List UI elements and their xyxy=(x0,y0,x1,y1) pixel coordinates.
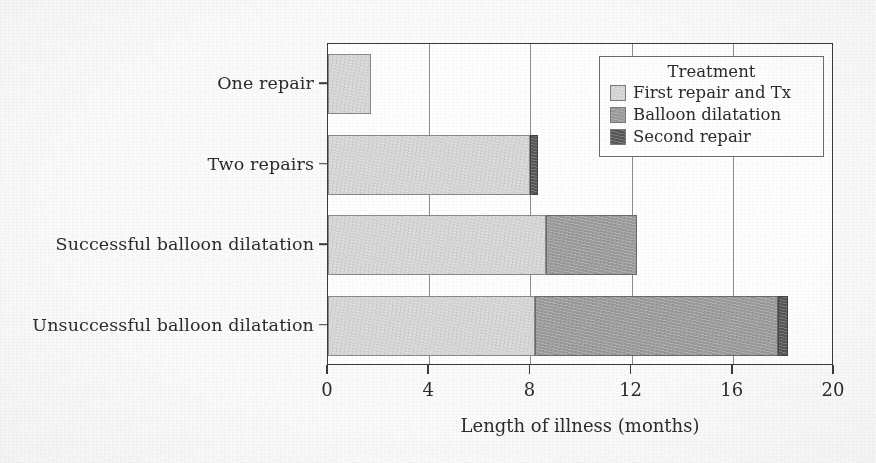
bar-texture xyxy=(329,136,529,194)
bar-texture xyxy=(329,297,534,355)
x-tick-label: 20 xyxy=(822,379,845,400)
legend-swatch-icon xyxy=(610,129,626,145)
x-tick-mark xyxy=(529,365,531,374)
bar-texture xyxy=(536,297,777,355)
bar-segment xyxy=(530,135,538,195)
bar-segment xyxy=(328,54,371,114)
figure-canvas: One repairTwo repairsSuccessful balloon … xyxy=(0,0,876,463)
legend-title: Treatment xyxy=(610,62,813,82)
y-tick-label: One repair xyxy=(217,73,314,93)
legend-label: Balloon dilatation xyxy=(633,107,781,124)
legend-swatch-texture xyxy=(611,86,625,100)
bar-segment xyxy=(328,215,546,275)
legend-item-list: First repair and TxBalloon dilatationSec… xyxy=(610,82,813,148)
x-tick-mark xyxy=(731,365,733,374)
y-tick-mark xyxy=(319,243,327,245)
x-tick-label: 16 xyxy=(720,379,743,400)
bar-segment xyxy=(328,296,535,356)
bar-texture xyxy=(531,136,537,194)
bar-texture xyxy=(779,297,787,355)
bar-texture xyxy=(329,55,370,113)
legend-swatch-icon xyxy=(610,85,626,101)
x-tick-label: 8 xyxy=(524,379,535,400)
bar-segment xyxy=(778,296,788,356)
x-tick-mark xyxy=(326,365,328,374)
bar-row xyxy=(328,296,834,356)
legend: Treatment First repair and TxBalloon dil… xyxy=(599,56,824,157)
legend-item: First repair and Tx xyxy=(610,82,813,104)
bar-segment xyxy=(328,135,530,195)
bar-segment xyxy=(535,296,778,356)
x-tick-label: 4 xyxy=(422,379,433,400)
bar-texture xyxy=(329,216,545,274)
legend-item: Second repair xyxy=(610,126,813,148)
x-axis-title: Length of illness (months) xyxy=(327,415,833,436)
x-tick-label: 0 xyxy=(321,379,332,400)
x-tick-mark xyxy=(630,365,632,374)
legend-swatch-icon xyxy=(610,107,626,123)
legend-label: First repair and Tx xyxy=(633,85,791,102)
x-tick-mark xyxy=(427,365,429,374)
bar-segment xyxy=(546,215,637,275)
bar-texture xyxy=(547,216,636,274)
bar-row xyxy=(328,215,834,275)
legend-swatch-texture xyxy=(611,130,625,144)
x-tick-mark xyxy=(832,365,834,374)
y-tick-label: Unsuccessful balloon dilatation xyxy=(32,315,314,335)
y-tick-mark xyxy=(319,163,327,165)
y-tick-label: Successful balloon dilatation xyxy=(56,234,314,254)
y-tick-mark xyxy=(319,324,327,326)
legend-label: Second repair xyxy=(633,129,751,146)
x-tick-label: 12 xyxy=(619,379,642,400)
y-tick-label: Two repairs xyxy=(207,154,314,174)
y-tick-mark xyxy=(319,82,327,84)
legend-swatch-texture xyxy=(611,108,625,122)
legend-item: Balloon dilatation xyxy=(610,104,813,126)
